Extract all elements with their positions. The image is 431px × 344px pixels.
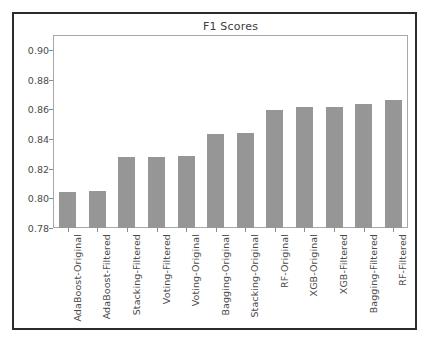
bar bbox=[237, 133, 254, 228]
bar bbox=[178, 156, 195, 228]
y-tick-mark bbox=[49, 228, 53, 229]
y-tick-mark bbox=[49, 169, 53, 170]
y-tick-mark bbox=[49, 109, 53, 110]
x-tick-mark bbox=[127, 228, 128, 232]
x-tick-mark bbox=[97, 228, 98, 232]
bar bbox=[266, 110, 283, 228]
x-tick-label: AdaBoost-Filtered bbox=[101, 234, 112, 319]
bar bbox=[296, 107, 313, 228]
y-tick-mark bbox=[49, 198, 53, 199]
figure-canvas: F1 Scores 0.780.800.820.840.860.880.90 A… bbox=[0, 0, 431, 344]
x-tick-mark bbox=[304, 228, 305, 232]
x-tick-mark bbox=[334, 228, 335, 232]
y-tick-label: 0.80 bbox=[9, 193, 49, 204]
x-tick-label: XGB-Filtered bbox=[338, 234, 349, 294]
chart-title: F1 Scores bbox=[53, 20, 408, 33]
bar bbox=[385, 100, 402, 228]
x-tick-label: Bagging-Filtered bbox=[368, 234, 379, 313]
y-tick-label: 0.88 bbox=[9, 74, 49, 85]
x-tick-label: Stacking-Original bbox=[249, 234, 260, 318]
bar bbox=[118, 157, 135, 228]
bar bbox=[207, 134, 224, 228]
bar bbox=[59, 192, 76, 228]
x-tick-mark bbox=[393, 228, 394, 232]
x-tick-label: Voting-Filtered bbox=[161, 234, 172, 304]
x-tick-label: RF-Filtered bbox=[397, 234, 408, 286]
y-tick-label: 0.82 bbox=[9, 163, 49, 174]
x-tick-label: RF-Original bbox=[279, 234, 290, 288]
x-tick-mark bbox=[216, 228, 217, 232]
bar bbox=[355, 104, 372, 228]
bar bbox=[148, 157, 165, 228]
y-tick-label: 0.90 bbox=[9, 44, 49, 55]
y-tick-mark bbox=[49, 139, 53, 140]
x-tick-label: AdaBoost-Original bbox=[72, 234, 83, 322]
x-tick-mark bbox=[364, 228, 365, 232]
bar bbox=[89, 191, 106, 228]
x-tick-label: Voting-Original bbox=[190, 234, 201, 306]
y-tick-label: 0.84 bbox=[9, 133, 49, 144]
x-tick-mark bbox=[245, 228, 246, 232]
y-tick-mark bbox=[49, 50, 53, 51]
x-tick-mark bbox=[157, 228, 158, 232]
x-tick-mark bbox=[186, 228, 187, 232]
y-tick-label: 0.86 bbox=[9, 104, 49, 115]
y-tick-mark bbox=[49, 80, 53, 81]
bar bbox=[326, 107, 343, 228]
y-axis: 0.780.800.820.840.860.880.90 bbox=[5, 0, 49, 344]
x-tick-label: Stacking-Filtered bbox=[131, 234, 142, 315]
x-tick-mark bbox=[275, 228, 276, 232]
x-tick-label: XGB-Original bbox=[308, 234, 319, 296]
x-tick-label: Bagging-Original bbox=[220, 234, 231, 316]
x-tick-mark bbox=[68, 228, 69, 232]
y-tick-label: 0.78 bbox=[9, 223, 49, 234]
